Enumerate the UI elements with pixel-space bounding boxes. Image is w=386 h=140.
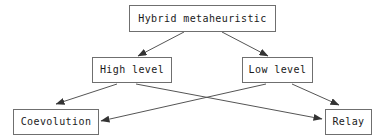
node-high-level-label: High level [100,65,164,75]
edge-low-to-coevolution [101,84,266,121]
hybrid-metaheuristic-diagram: Hybrid metaheuristic High level Low leve… [0,0,386,140]
node-relay-label: Relay [332,117,364,127]
node-high-level: High level [92,57,172,83]
edge-root-to-low [222,32,268,56]
node-coevolution: Coevolution [13,109,99,135]
node-relay: Relay [325,109,372,135]
node-coevolution-label: Coevolution [21,117,92,127]
node-hybrid-metaheuristic-label: Hybrid metaheuristic [138,14,266,24]
node-low-level-label: Low level [249,65,307,75]
edge-root-to-high [138,32,184,56]
node-hybrid-metaheuristic: Hybrid metaheuristic [129,5,276,32]
edge-high-to-coevolution [56,84,117,104]
node-low-level: Low level [242,57,313,83]
edge-high-to-relay [136,84,322,119]
edge-low-to-relay [292,84,339,105]
